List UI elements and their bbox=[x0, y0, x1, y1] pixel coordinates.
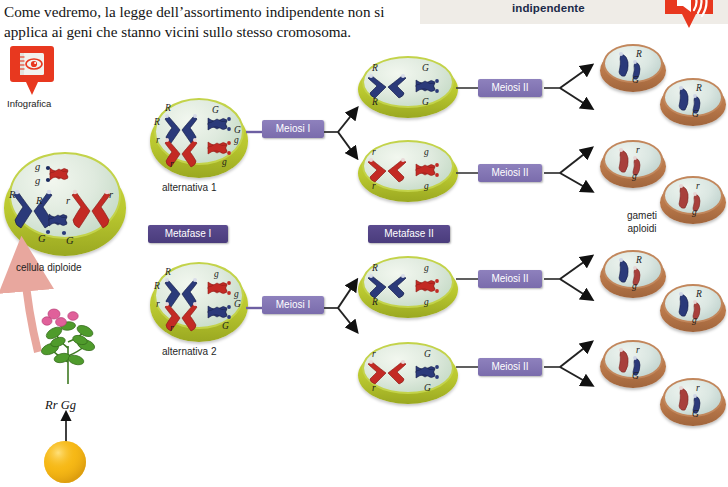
pea-seed-icon bbox=[43, 440, 87, 484]
gametes-caption-line1: gameti bbox=[612, 210, 672, 221]
allele-label: R bbox=[696, 290, 702, 300]
allele-label: R bbox=[372, 64, 378, 74]
gamete-cell-1: R G bbox=[600, 44, 666, 92]
allele-label: R bbox=[9, 190, 15, 201]
allele-label: G bbox=[212, 106, 219, 116]
allele-label: G bbox=[424, 384, 431, 394]
banner-title: indipendente bbox=[512, 2, 585, 14]
allele-label: G bbox=[692, 410, 699, 420]
allele-label: R bbox=[636, 256, 642, 266]
allele-label: g bbox=[214, 270, 219, 280]
gamete-cell-7: r G bbox=[600, 340, 666, 388]
meiosis2-branch-arrows-3 bbox=[456, 265, 596, 325]
meiosis1-branch-arrows-top bbox=[246, 116, 358, 178]
diploid-cell: g g R R r r G G bbox=[4, 152, 126, 256]
allele-label: R bbox=[154, 118, 160, 128]
allele-label: R bbox=[165, 268, 171, 278]
allele-label: R bbox=[696, 84, 702, 94]
metaphase2-cell-1: R R G G bbox=[358, 56, 458, 118]
allele-label: G bbox=[222, 322, 229, 332]
gamete-cell-3: r g bbox=[600, 140, 666, 188]
metaphase2-cell-3: R R g g bbox=[358, 256, 458, 318]
allele-label: r bbox=[696, 182, 700, 192]
allele-label: g bbox=[424, 264, 429, 274]
allele-label: g bbox=[35, 176, 40, 187]
alternative-2-caption: alternativa 2 bbox=[162, 346, 216, 357]
infographic-eye-notebook-icon bbox=[10, 46, 54, 96]
gamete-cell-8: r G bbox=[660, 378, 726, 426]
diploid-cell-caption: cellula diploide bbox=[16, 262, 82, 273]
allele-label: r bbox=[109, 190, 113, 201]
meiosis2-branch-arrows-1 bbox=[456, 74, 596, 134]
infografica-badge[interactable]: Infografica bbox=[6, 46, 76, 109]
allele-label: R bbox=[372, 298, 378, 308]
allele-label: r bbox=[636, 346, 640, 356]
metaphase1-cell-alternative-1: R R G G r r g g bbox=[150, 98, 248, 178]
intro-paragraph: Come vedremo, la legge dell’assortimento… bbox=[4, 2, 404, 41]
allele-label: R bbox=[154, 282, 160, 292]
infografica-label: Infografica bbox=[6, 98, 76, 109]
allele-label: G bbox=[38, 234, 46, 245]
allele-label: r bbox=[372, 182, 376, 192]
allele-label: r bbox=[156, 136, 160, 146]
metaphase2-cell-2: r r g g bbox=[358, 140, 458, 202]
allele-label: r bbox=[170, 324, 174, 334]
allele-label: g bbox=[424, 298, 429, 308]
allele-label: g bbox=[234, 136, 239, 146]
allele-label: R bbox=[372, 98, 378, 108]
metaphase2-cell-4: r r G G bbox=[358, 342, 458, 404]
meiosis2-branch-arrows-4 bbox=[456, 353, 596, 413]
allele-label: r bbox=[372, 350, 376, 360]
gametes-caption-line2: aploidi bbox=[612, 223, 672, 234]
allele-label: g bbox=[424, 182, 429, 192]
allele-label: r bbox=[66, 196, 70, 207]
allele-label: g bbox=[692, 208, 697, 218]
allele-label: g bbox=[222, 158, 227, 168]
metaphase1-cell-alternative-2: R R g g r r G G bbox=[150, 262, 248, 342]
speaker-icon[interactable] bbox=[663, 0, 715, 30]
allele-label: G bbox=[632, 372, 639, 382]
allele-label: G bbox=[422, 64, 429, 74]
allele-label: G bbox=[422, 98, 429, 108]
allele-label: r bbox=[636, 146, 640, 156]
meiosis1-branch-arrows-bottom bbox=[246, 292, 358, 354]
allele-label: g bbox=[632, 282, 637, 292]
allele-label: R bbox=[636, 50, 642, 60]
alternative-1-caption: alternativa 1 bbox=[162, 182, 216, 193]
allele-label: R bbox=[36, 196, 42, 207]
allele-label: g bbox=[692, 316, 697, 326]
allele-label: r bbox=[156, 300, 160, 310]
pea-plant-icon bbox=[28, 300, 108, 386]
metaphase-2-label: Metafase II bbox=[368, 225, 450, 243]
gamete-cell-6: R g bbox=[660, 284, 726, 332]
plant-genotype: Rr Gg bbox=[45, 398, 76, 413]
allele-label: r bbox=[696, 384, 700, 394]
meiosis2-branch-arrows-2 bbox=[456, 159, 596, 219]
allele-label: G bbox=[692, 110, 699, 120]
gamete-cell-2: R G bbox=[660, 78, 726, 126]
allele-label: G bbox=[424, 350, 431, 360]
gamete-cell-5: R g bbox=[600, 250, 666, 298]
allele-label: g bbox=[632, 172, 637, 182]
allele-label: G bbox=[632, 76, 639, 86]
allele-label: G bbox=[234, 300, 241, 310]
allele-label: R bbox=[165, 104, 171, 114]
metaphase-1-label: Metafase I bbox=[148, 225, 228, 243]
allele-label: r bbox=[372, 148, 376, 158]
allele-label: R bbox=[372, 264, 378, 274]
allele-label: g bbox=[35, 162, 40, 173]
allele-label: G bbox=[66, 236, 74, 247]
allele-label: g bbox=[424, 148, 429, 158]
allele-label: r bbox=[170, 160, 174, 170]
allele-label: r bbox=[372, 384, 376, 394]
